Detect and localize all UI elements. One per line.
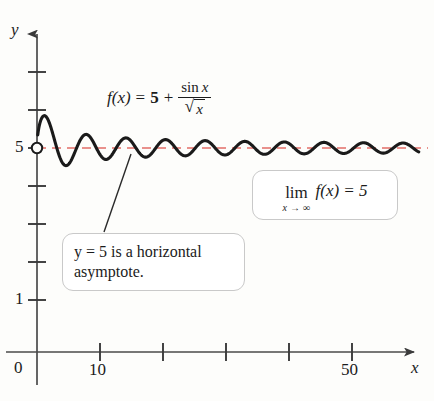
open-circle-marker — [32, 143, 42, 153]
sqrt-icon: √ — [185, 98, 194, 115]
x-tick-label-0: 0 — [14, 358, 23, 378]
limit-operator: lim x → ∞ — [282, 184, 310, 213]
asymptote-text-block: y = 5 is a horizontal asymptote. — [74, 242, 202, 283]
limit-subscript: x → ∞ — [282, 202, 310, 213]
formula-numerator: sinx — [178, 79, 211, 98]
formula-denominator: √x — [185, 98, 205, 118]
y-axis-label: y — [11, 20, 19, 40]
y-tick-label-1: 1 — [15, 289, 24, 309]
formula-lhs: f(x) — [107, 88, 131, 108]
asymptote-line-1: y = 5 is a horizontal — [74, 242, 202, 262]
formula-equals: = — [136, 88, 146, 108]
limit-callout: lim x → ∞ f(x) = 5 — [252, 170, 398, 220]
y-tick-label-5: 5 — [15, 137, 24, 157]
formula-fraction: sinx √x — [178, 79, 211, 118]
limit-expression: lim x → ∞ f(x) = 5 — [282, 180, 367, 211]
formula-constant: 5 — [150, 88, 159, 108]
x-tick-label-10: 10 — [89, 360, 106, 380]
figure-container: y x 5 1 0 10 50 f(x) = 5 + sinx √x lim x… — [0, 0, 434, 401]
limit-lim-text: lim — [285, 184, 308, 201]
asymptote-line-2: asymptote. — [74, 262, 202, 282]
function-curve — [38, 116, 419, 166]
asymptote-callout: y = 5 is a horizontal asymptote. — [62, 233, 245, 291]
function-formula: f(x) = 5 + sinx √x — [107, 78, 211, 117]
formula-plus: + — [164, 88, 174, 108]
x-tick-label-50: 50 — [341, 360, 358, 380]
formula-numerator-var: x — [202, 79, 209, 95]
limit-body: f(x) = 5 — [316, 180, 368, 202]
formula-sin: sin — [181, 79, 199, 95]
x-axis-label: x — [411, 358, 419, 378]
callout-leader-line — [104, 154, 131, 232]
formula-denominator-var: x — [194, 99, 205, 118]
